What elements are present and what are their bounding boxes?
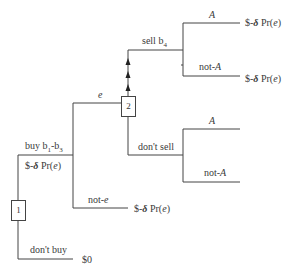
buy-cost-label: $-δ Pr(e) bbox=[25, 160, 61, 172]
not-A-var: A bbox=[220, 167, 226, 178]
A-text: A bbox=[209, 115, 215, 126]
decision-node-1: 1 bbox=[11, 200, 26, 221]
dont-buy-label: don't buy bbox=[30, 244, 67, 256]
dont-buy-text: don't buy bbox=[30, 244, 67, 255]
decision-tree-diagram: 1 2 buy b1-b3 $-δ Pr(e) don't buy $0 e n… bbox=[0, 0, 292, 274]
arrow-icons bbox=[126, 58, 131, 91]
pr-open: Pr( bbox=[38, 160, 53, 171]
pr-open: Pr( bbox=[147, 203, 162, 214]
payoff-A-top: $-δ Pr(e) bbox=[245, 17, 281, 29]
not-A-prefix: not- bbox=[204, 167, 220, 178]
not-A-label-top: not-A bbox=[199, 61, 221, 73]
not-A-label-bottom: not-A bbox=[204, 167, 226, 179]
pr-close: ) bbox=[278, 17, 281, 28]
node-1-label: 1 bbox=[16, 205, 21, 215]
pr-close: ) bbox=[167, 203, 170, 214]
not-e-prefix: not- bbox=[88, 194, 104, 205]
not-A-prefix: not- bbox=[199, 61, 215, 72]
zero-payoff-text: $0 bbox=[82, 254, 92, 265]
buy-sub3: 3 bbox=[59, 146, 63, 154]
pr-close: ) bbox=[58, 160, 61, 171]
buy-text: buy b bbox=[25, 140, 48, 151]
A-label-bottom: A bbox=[209, 115, 215, 127]
sell-text: sell b bbox=[142, 35, 163, 46]
decision-node-2: 2 bbox=[121, 96, 136, 117]
payoff-zero: $0 bbox=[82, 254, 92, 266]
dont-sell-label: don't sell bbox=[138, 141, 174, 153]
payoff-not-e: $-δ Pr(e) bbox=[134, 203, 170, 215]
not-A-var: A bbox=[215, 61, 221, 72]
sell-sub: 4 bbox=[163, 41, 167, 49]
A-label-top: A bbox=[209, 9, 215, 21]
e-label: e bbox=[98, 89, 102, 101]
pr-open: Pr( bbox=[258, 17, 273, 28]
not-e-var: e bbox=[104, 194, 108, 205]
buy-label: buy b1-b3 bbox=[25, 140, 63, 156]
pr-open: Pr( bbox=[258, 73, 273, 84]
e-text: e bbox=[98, 89, 102, 100]
payoff-not-A-top: $-δ Pr(e) bbox=[245, 73, 281, 85]
A-text: A bbox=[209, 9, 215, 20]
pr-close: ) bbox=[278, 73, 281, 84]
dont-sell-text: don't sell bbox=[138, 141, 174, 152]
node-2-label: 2 bbox=[126, 101, 131, 111]
sell-label: sell b4 bbox=[142, 35, 167, 51]
not-e-label: not-e bbox=[88, 194, 109, 206]
